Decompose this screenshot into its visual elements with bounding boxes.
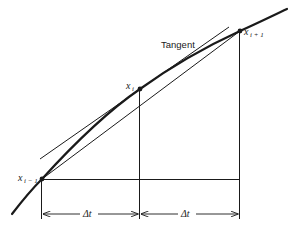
svg-text:i − 1: i − 1: [24, 177, 38, 185]
point-prev-marker: [40, 177, 45, 182]
point-next-marker: [238, 29, 243, 34]
svg-text:i + 1: i + 1: [250, 31, 264, 39]
svg-text:i: i: [132, 85, 134, 93]
tangent-line: [40, 27, 229, 159]
svg-text:x: x: [125, 80, 131, 91]
svg-text:x: x: [243, 26, 249, 37]
label-x-prev: x i − 1: [17, 172, 38, 185]
delta-t-left-label: Δt: [82, 208, 92, 219]
label-x-next: x i + 1: [243, 26, 264, 39]
svg-text:x: x: [17, 172, 23, 183]
label-x-mid: x i: [125, 80, 134, 93]
tangent-label: Tangent: [161, 39, 195, 50]
derivative-diagram: Tangent x i − 1 x i x i + 1 Δt Δt: [0, 0, 297, 228]
point-mid-marker: [138, 87, 143, 92]
delta-t-right-label: Δt: [180, 208, 190, 219]
secant-chord: [42, 31, 240, 179]
function-curve: [12, 9, 287, 214]
